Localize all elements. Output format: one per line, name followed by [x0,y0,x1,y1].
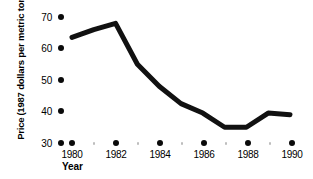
price-line-series [0,0,313,179]
price-line-path [72,23,290,127]
chart-figure: Price (1987 dollars per metric ton) Year… [0,0,313,179]
